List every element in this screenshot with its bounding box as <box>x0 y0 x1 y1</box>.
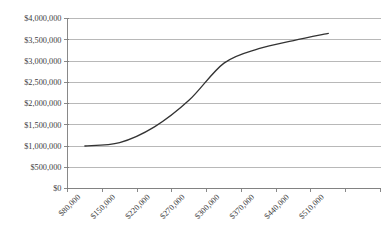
y-tick-label: $500,000 <box>30 163 61 172</box>
y-tick-label: $2,500,000 <box>24 78 61 87</box>
y-tick-label: $3,500,000 <box>24 36 61 45</box>
y-tick-label: $2,000,000 <box>24 99 61 108</box>
y-tick-label: $1,000,000 <box>24 142 61 151</box>
y-axis-tick-labels: $0$500,000$1,000,000$1,500,000$2,000,000… <box>24 14 61 193</box>
y-tick-label: $4,000,000 <box>24 14 61 23</box>
chart-container: $0$500,000$1,000,000$1,500,000$2,000,000… <box>0 0 391 243</box>
y-tick-label: $3,000,000 <box>24 57 61 66</box>
y-tick-label: $1,500,000 <box>24 121 61 130</box>
y-tick-label: $0 <box>53 184 61 193</box>
line-chart: $0$500,000$1,000,000$1,500,000$2,000,000… <box>0 0 391 243</box>
